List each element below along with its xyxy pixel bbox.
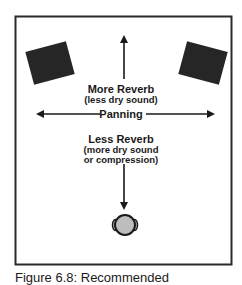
panning-label: Panning (0, 109, 242, 120)
more-reverb-sublabel: (less dry sound) (0, 95, 242, 105)
less-reverb-sublabel-2: or compression) (0, 155, 242, 165)
figure-caption: Figure 6.8: Recommended (15, 270, 169, 285)
